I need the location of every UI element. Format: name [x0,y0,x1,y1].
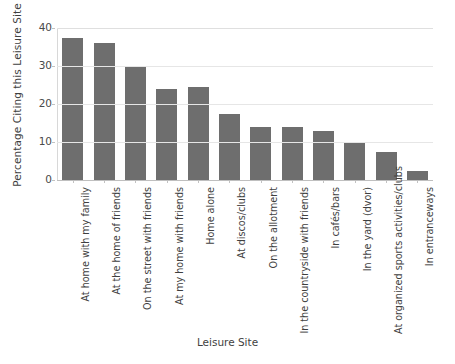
bar [313,131,334,180]
x-tick-label: Home alone [203,184,219,334]
y-tick-mark [52,180,55,181]
bar [407,171,428,181]
gridline [57,142,433,143]
bar-chart-figure: Percentage Citing this Leisure Site 0102… [0,0,455,364]
plot-inner [57,18,433,180]
y-tick-label: 30 [30,59,52,71]
gridline [57,66,433,67]
y-tick-label: 10 [30,135,52,147]
bar [250,127,271,180]
x-tick-label: On the allotment [266,184,282,334]
x-tick-label: In cafés/bars [328,184,344,334]
y-tick-mark [52,28,55,29]
bar [62,38,83,181]
x-axis-title: Leisure Site [0,336,455,348]
x-tick-label: At discos/clubs [234,184,250,334]
bar [282,127,303,180]
y-tick-label: 20 [30,97,52,109]
bar [219,114,240,181]
x-tick-label: In the yard (dvor) [360,184,376,334]
x-tick-label: In the countryside with friends [297,184,313,334]
bar [125,66,146,180]
bar [94,43,115,180]
bar [188,87,209,180]
y-tick-label: 0 [30,173,52,185]
bar-series [57,18,433,180]
y-tick-mark [52,66,55,67]
x-axis-line [57,180,433,181]
x-tick-label: At home with my family [78,184,94,334]
y-axis-ticks: 010203040 [26,18,52,180]
x-tick-label: In entranceways [422,184,438,334]
y-tick-mark [52,104,55,105]
y-tick-mark [52,142,55,143]
x-tick-label: On the street with friends [140,184,156,334]
plot-area [57,18,433,180]
y-axis-title: Percentage Citing this Leisure Site [6,0,28,190]
x-tick-label: At organized sports activities/clubs [391,184,407,334]
gridline-overlay [57,28,433,29]
y-tick-label: 40 [30,21,52,33]
x-tick-label: At my home with friends [172,184,188,334]
gridline [57,104,433,105]
bar [156,89,177,180]
x-tick-label: At the home of friends [109,184,125,334]
x-axis-category-labels: At home with my familyAt the home of fri… [57,184,433,334]
bar [344,142,365,180]
